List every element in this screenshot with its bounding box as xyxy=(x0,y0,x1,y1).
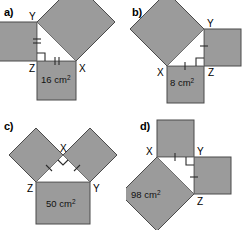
panel-c: c) X Z Y 50 cm2 xyxy=(0,115,126,230)
vertex-label-y: Y xyxy=(29,11,36,22)
panel-b-diagram: Y Z X 8 cm2 xyxy=(126,0,252,115)
area-label-d: 98 cm2 xyxy=(131,189,161,201)
figure-sheet: a) Y Z X 16 cm2 xyxy=(0,0,252,230)
area-label-b-value: 8 cm xyxy=(170,77,191,88)
square-on-leg-yz xyxy=(0,22,37,61)
vertex-label-z: Z xyxy=(208,67,214,78)
area-label-d-exponent: 2 xyxy=(157,189,161,196)
panel-b: b) Y Z X 8 cm2 xyxy=(126,0,252,115)
vertex-label-x: X xyxy=(60,143,67,154)
vertex-label-z: Z xyxy=(197,196,203,207)
panel-a: a) Y Z X 16 cm2 xyxy=(0,0,126,115)
panel-d: d) X Y Z 98 cm2 xyxy=(126,115,252,230)
vertex-label-y: Y xyxy=(197,146,204,157)
panel-a-diagram: Y Z X 16 cm2 xyxy=(0,0,126,115)
square-on-leg-yz xyxy=(194,157,231,194)
vertex-label-y: Y xyxy=(93,183,100,194)
vertex-label-y: Y xyxy=(207,18,214,29)
vertex-label-x: X xyxy=(146,146,153,157)
vertex-label-x: X xyxy=(157,67,164,78)
area-label-d-value: 98 cm xyxy=(131,189,157,200)
area-label-a: 16 cm2 xyxy=(41,74,71,86)
area-label-a-value: 16 cm xyxy=(41,74,67,85)
area-label-b-exponent: 2 xyxy=(191,77,195,84)
area-label-c: 50 cm2 xyxy=(46,198,76,210)
panel-c-diagram: X Z Y 50 cm2 xyxy=(0,115,126,230)
area-label-a-exponent: 2 xyxy=(67,74,71,81)
area-label-c-exponent: 2 xyxy=(72,198,76,205)
area-label-c-value: 50 cm xyxy=(46,198,72,209)
square-on-leg-yz xyxy=(204,29,241,66)
square-on-leg-xy xyxy=(157,120,194,157)
vertex-label-z: Z xyxy=(29,63,35,74)
vertex-label-x: X xyxy=(79,63,86,74)
panel-d-diagram: X Y Z 98 cm2 xyxy=(126,115,252,230)
vertex-label-z: Z xyxy=(27,183,33,194)
